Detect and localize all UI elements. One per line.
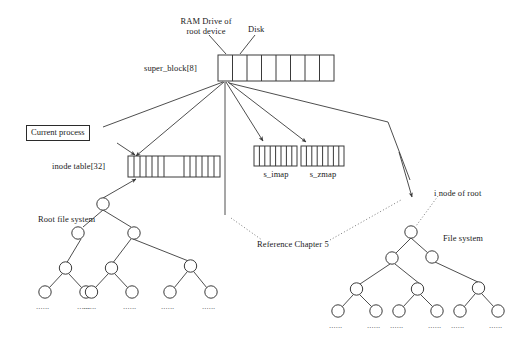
ellipsis-left-1: ......	[36, 301, 49, 311]
root-file-system-label: Root file system	[38, 214, 95, 224]
ellipsis-right-3: ......	[390, 320, 403, 330]
ellipsis-left-4: ......	[123, 301, 136, 311]
s-imap-label: s_imap	[255, 169, 297, 179]
reference-chapter-label: Reference Chapter 5	[257, 239, 329, 249]
current-process-label: Current process	[31, 127, 85, 137]
s-zmap-array-shape	[301, 146, 344, 166]
s-zmap-label: s_zmap	[302, 169, 344, 179]
disk-leader-line	[240, 35, 255, 54]
ellipsis-right-4: ......	[428, 320, 441, 330]
reference-dotted-lines	[231, 200, 401, 240]
ellipsis-right-1: ......	[329, 320, 342, 330]
super-block-label: super_block[8]	[144, 63, 197, 73]
diagram-canvas: RAM Drive of root device Disk super_bloc…	[0, 0, 523, 339]
disk-label: Disk	[248, 24, 264, 34]
current-process-box: Current process	[26, 125, 90, 141]
ellipsis-right-6: ......	[489, 320, 502, 330]
file-system-label: File system	[443, 233, 483, 243]
current-process-leader-line	[117, 143, 135, 155]
super-block-array-shape	[218, 55, 334, 81]
inode-of-root-dotted-line	[416, 196, 438, 226]
s-imap-array-shape	[254, 146, 297, 166]
ram-drive-label: RAM Drive of root device	[171, 16, 241, 36]
root-file-system-tree-shape	[39, 198, 217, 298]
ellipsis-left-6: ......	[202, 301, 215, 311]
inode-of-root-label: i node of root	[434, 188, 481, 198]
inode-table-label: inode table[32]	[52, 161, 105, 171]
ellipsis-right-5: ......	[451, 320, 464, 330]
ram-drive-label-line2: root device	[186, 26, 225, 36]
root-inode-pointer-arrow	[103, 179, 136, 198]
ellipsis-left-5: ......	[161, 301, 174, 311]
ram-drive-leader-line	[209, 35, 226, 54]
ellipsis-left-3: ......	[83, 301, 96, 311]
ellipsis-right-2: ......	[367, 320, 380, 330]
ram-drive-label-line1: RAM Drive of	[180, 16, 231, 26]
inode-table-array-shape	[128, 156, 220, 177]
